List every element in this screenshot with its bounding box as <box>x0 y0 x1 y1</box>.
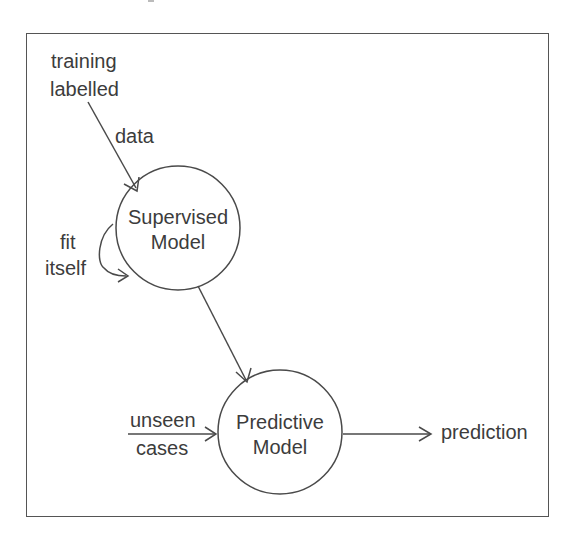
label-itself: itself <box>45 256 86 281</box>
prediction-arrow <box>343 427 431 441</box>
label-labelled: labelled <box>50 77 119 102</box>
label-fit: fit <box>60 230 76 255</box>
supervised-model-label: Supervised Model <box>128 205 228 255</box>
label-cases: cases <box>136 436 188 461</box>
predictive-line1: Predictive <box>228 410 332 435</box>
fit-itself-arrow <box>99 224 128 282</box>
label-training: training <box>51 49 117 74</box>
predictive-model-label: Predictive Model <box>228 410 332 460</box>
label-prediction: prediction <box>441 420 528 445</box>
label-data: data <box>115 124 154 149</box>
label-unseen: unseen <box>130 408 196 433</box>
supervised-to-predictive-arrow <box>198 286 251 382</box>
supervised-line2: Model <box>128 230 228 255</box>
predictive-line2: Model <box>228 435 332 460</box>
supervised-line1: Supervised <box>128 205 228 230</box>
